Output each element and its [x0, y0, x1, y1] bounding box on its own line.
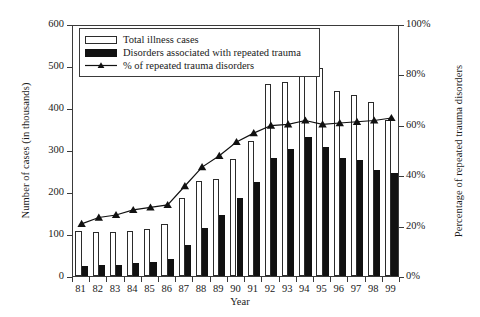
x-tick-16	[347, 277, 348, 282]
bar-disorders-90	[237, 198, 243, 276]
y-tick-label-left-200: 200	[20, 186, 64, 197]
y-tick-label-right-80%: 80%	[406, 68, 425, 79]
bar-disorders-86	[168, 259, 174, 276]
x-tick-0	[72, 277, 73, 282]
x-tick-7	[192, 277, 193, 282]
x-tick-10	[244, 277, 245, 282]
x-tick-14	[313, 277, 314, 282]
x-tick-9	[227, 277, 228, 282]
y-tick-right-80%	[399, 75, 404, 76]
bar-disorders-91	[254, 182, 260, 276]
y-tick-label-left-0: 0	[20, 270, 64, 281]
line-triangle-swatch-icon	[85, 61, 117, 70]
x-tick-label-99: 99	[379, 283, 401, 294]
x-tick-6	[175, 277, 176, 282]
x-tick-2	[106, 277, 107, 282]
x-tick-15	[330, 277, 331, 282]
legend-item-percentage: % of repeated trauma disorders	[85, 59, 314, 72]
y-tick-label-left-300: 300	[20, 144, 64, 155]
y-tick-label-right-0%: 0%	[406, 270, 420, 281]
legend-label-total-illness-cases: Total illness cases	[123, 34, 199, 46]
bar-disorders-82	[99, 265, 105, 276]
legend-item-disorders: Disorders associated with repeated traum…	[85, 46, 314, 59]
y-tick-right-100%	[399, 25, 404, 26]
bar-disorders-87	[185, 245, 191, 276]
white-bar-swatch-icon	[85, 36, 117, 44]
chart-container: Number of cases (in thousands) Percentag…	[0, 0, 480, 317]
x-tick-19	[399, 277, 400, 282]
percentage-marker-89	[215, 152, 223, 159]
x-tick-18	[382, 277, 383, 282]
x-tick-11	[261, 277, 262, 282]
legend-label-disorders: Disorders associated with repeated traum…	[123, 47, 301, 59]
percentage-marker-91	[250, 129, 258, 136]
bar-disorders-89	[219, 215, 225, 276]
black-bar-swatch-icon	[85, 49, 117, 57]
y-tick-label-right-100%: 100%	[406, 18, 431, 29]
x-tick-12	[279, 277, 280, 282]
bar-disorders-83	[116, 265, 122, 276]
percentage-marker-82	[95, 214, 103, 221]
y-tick-label-right-60%: 60%	[406, 119, 425, 130]
bar-disorders-98	[374, 170, 380, 276]
bar-disorders-93	[288, 149, 294, 276]
bar-disorders-95	[323, 147, 329, 276]
legend-item-total-illness-cases: Total illness cases	[85, 33, 314, 46]
bar-disorders-99	[391, 173, 397, 276]
x-tick-17	[365, 277, 366, 282]
y-tick-right-20%	[399, 227, 404, 228]
x-tick-1	[89, 277, 90, 282]
x-tick-3	[124, 277, 125, 282]
y-tick-label-left-600: 600	[20, 18, 64, 29]
y-tick-right-40%	[399, 176, 404, 177]
y-tick-label-right-20%: 20%	[406, 220, 425, 231]
x-axis-title: Year	[0, 296, 480, 307]
percentage-marker-81	[77, 220, 85, 227]
x-tick-4	[141, 277, 142, 282]
y-axis-right-title: Percentage of repeated trauma disorders	[453, 35, 465, 267]
x-tick-5	[158, 277, 159, 282]
y-tick-label-left-100: 100	[20, 228, 64, 239]
percentage-marker-84	[129, 206, 137, 213]
legend-label-percentage: % of repeated trauma disorders	[123, 60, 254, 72]
percentage-marker-83	[112, 211, 120, 218]
bar-disorders-97	[357, 160, 363, 276]
bar-disorders-88	[202, 228, 208, 276]
percentage-marker-85	[146, 203, 154, 210]
percentage-marker-87	[181, 182, 189, 189]
chart-legend: Total illness cases Disorders associated…	[79, 28, 320, 77]
x-tick-8	[210, 277, 211, 282]
bar-disorders-85	[150, 262, 156, 276]
y-tick-label-left-500: 500	[20, 60, 64, 71]
percentage-marker-86	[163, 201, 171, 208]
bar-disorders-81	[82, 266, 88, 276]
y-tick-label-right-40%: 40%	[406, 169, 425, 180]
x-tick-13	[296, 277, 297, 282]
percentage-marker-90	[232, 138, 240, 145]
bar-disorders-92	[271, 158, 277, 276]
percentage-marker-88	[198, 163, 206, 170]
bar-disorders-94	[305, 137, 311, 276]
bar-disorders-96	[340, 158, 346, 276]
bar-disorders-84	[133, 263, 139, 276]
y-tick-label-left-400: 400	[20, 102, 64, 113]
y-tick-right-60%	[399, 126, 404, 127]
